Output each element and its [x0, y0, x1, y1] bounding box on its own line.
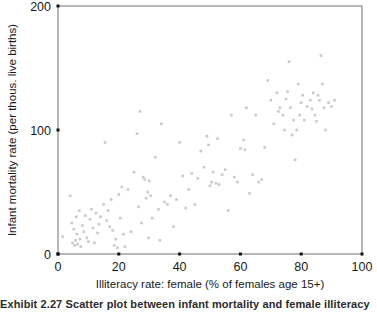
scatter-point	[206, 135, 209, 138]
scatter-point	[320, 54, 323, 57]
scatter-point	[80, 245, 83, 248]
scatter-point	[292, 119, 295, 122]
scatter-point	[89, 218, 92, 221]
scatter-point	[118, 193, 121, 196]
scatter-point	[113, 244, 116, 247]
scatter-point	[81, 224, 84, 227]
scatter-point	[136, 132, 139, 135]
scatter-point	[297, 83, 300, 86]
scatter-point	[244, 149, 247, 152]
scatter-point	[73, 228, 76, 231]
scatter-point	[76, 243, 79, 246]
scatter-point	[242, 139, 245, 142]
scatter-point	[178, 141, 181, 144]
scatter-point	[288, 61, 291, 64]
scatter-point	[312, 92, 315, 95]
scatter-point	[96, 232, 99, 235]
y-tick-mark	[57, 253, 60, 256]
scatter-point	[114, 238, 117, 241]
scatter-point	[321, 83, 324, 86]
scatter-point	[300, 101, 303, 104]
scatter-point	[263, 146, 266, 149]
scatter-point	[154, 156, 157, 159]
scatter-point	[157, 208, 160, 211]
scatter-point	[266, 79, 269, 82]
y-tick-mark	[57, 129, 60, 132]
scatter-point	[318, 99, 321, 102]
scatter-point	[111, 229, 114, 232]
scatter-point	[317, 94, 320, 97]
scatter-point	[169, 194, 172, 197]
x-tick-label: 60	[233, 260, 247, 274]
y-tick-label: 100	[30, 124, 51, 138]
x-tick-label: 80	[294, 260, 308, 274]
scatter-point	[221, 173, 224, 176]
scatter-point	[236, 181, 239, 184]
scatter-point	[323, 106, 326, 109]
scatter-point	[127, 188, 130, 191]
scatter-point	[187, 188, 190, 191]
scatter-point	[98, 223, 101, 226]
scatter-point	[194, 203, 197, 206]
scatter-point	[116, 247, 119, 250]
scatter-point	[276, 92, 279, 95]
y-tick-label: 0	[44, 248, 51, 262]
scatter-plot-canvas: 020406080100 0100200 Illiteracy rate: fe…	[0, 0, 377, 312]
scatter-point	[92, 227, 95, 230]
scatter-point	[270, 99, 273, 102]
x-tick-label: 100	[352, 260, 373, 274]
scatter-point	[295, 129, 298, 132]
x-tick-label: 20	[112, 260, 126, 274]
scatter-point	[99, 216, 102, 219]
scatter-point	[324, 129, 327, 132]
scatter-point	[148, 180, 151, 183]
scatter-point	[233, 176, 236, 179]
scatter-point	[163, 201, 166, 204]
scatter-point	[151, 217, 154, 220]
scatter-point	[166, 203, 169, 206]
scatter-point	[149, 194, 152, 197]
scatter-point	[87, 240, 90, 243]
scatter-point	[190, 172, 193, 175]
scatter-point	[105, 219, 108, 222]
scatter-point	[102, 203, 105, 206]
scatter-point	[230, 114, 233, 117]
figure-caption: Exhibit 2.27 Scatter plot between infant…	[0, 299, 370, 310]
scatter-point	[218, 183, 221, 186]
scatter-point	[277, 110, 280, 113]
scatter-point	[86, 237, 89, 240]
scatter-point	[210, 181, 213, 184]
scatter-point	[143, 178, 146, 181]
figure-caption-strip: Exhibit 2.27 Scatter plot between infant…	[0, 299, 377, 312]
x-tick-mark	[300, 253, 303, 256]
scatter-point	[121, 186, 124, 189]
scatter-point	[90, 208, 93, 211]
scatter-point	[207, 144, 210, 147]
x-tick-mark	[361, 253, 364, 256]
scatter-point	[78, 209, 81, 212]
scatter-point	[133, 171, 136, 174]
scatter-point	[251, 173, 254, 176]
y-tick-mark	[57, 5, 60, 8]
scatter-point	[224, 168, 227, 171]
scatter-point	[175, 198, 178, 201]
scatter-point	[245, 106, 248, 109]
scatter-point	[71, 242, 74, 245]
x-tick-label: 0	[55, 260, 62, 274]
scatter-point	[327, 101, 330, 104]
scatter-point	[130, 230, 133, 233]
scatter-point	[254, 114, 257, 117]
scatter-point	[286, 90, 289, 93]
scatter-point	[145, 197, 148, 200]
scatter-point	[159, 239, 162, 242]
scatter-point	[314, 114, 317, 117]
y-axis-ticks: 0100200	[30, 0, 59, 262]
scatter-point	[273, 123, 276, 126]
scatter-point	[212, 171, 215, 174]
scatter-point	[184, 207, 187, 210]
scatter-point	[330, 105, 333, 108]
x-axis-title: Illiteracy rate: female (% of females ag…	[96, 278, 325, 290]
scatter-point	[83, 230, 86, 233]
scatter-point	[147, 237, 150, 240]
scatter-point	[260, 178, 263, 181]
